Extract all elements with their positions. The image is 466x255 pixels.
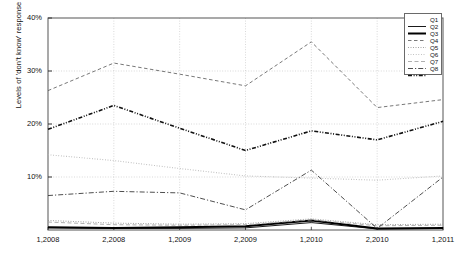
legend-item-q5[interactable]: Q5 bbox=[407, 44, 438, 51]
legend-label: Q2 bbox=[430, 23, 438, 30]
legend-label: Q5 bbox=[430, 44, 438, 51]
legend-label: Q6 bbox=[430, 51, 438, 58]
legend-swatch-icon bbox=[407, 30, 427, 37]
legend-swatch-icon bbox=[407, 16, 427, 23]
legend-label: Q8 bbox=[430, 65, 438, 72]
legend-label: Q7 bbox=[430, 58, 438, 65]
legend-item-q7[interactable]: Q7 bbox=[407, 58, 438, 65]
legend-item-q1[interactable]: Q1 bbox=[407, 16, 438, 23]
legend-swatch-icon bbox=[407, 51, 427, 58]
legend-item-q6[interactable]: Q6 bbox=[407, 51, 438, 58]
series-line-q3 bbox=[48, 42, 443, 108]
legend-label: Q1 bbox=[430, 16, 438, 23]
legend-swatch-icon bbox=[407, 37, 427, 44]
legend: Q1Q2Q3Q4Q5Q6Q7Q8 bbox=[404, 13, 442, 75]
legend-swatch-icon bbox=[407, 44, 427, 51]
legend-item-q2[interactable]: Q2 bbox=[407, 23, 438, 30]
plot-area bbox=[0, 0, 466, 255]
legend-swatch-icon bbox=[407, 58, 427, 65]
legend-item-q8[interactable]: Q8 bbox=[407, 65, 438, 72]
line-chart: Levels of 'don't know' response 40%30%20… bbox=[0, 0, 466, 255]
legend-item-q3[interactable]: Q3 bbox=[407, 30, 438, 37]
legend-label: Q3 bbox=[430, 30, 438, 37]
legend-swatch-icon bbox=[407, 65, 427, 72]
legend-swatch-icon bbox=[407, 23, 427, 30]
legend-item-q4[interactable]: Q4 bbox=[407, 37, 438, 44]
series-line-q7 bbox=[48, 170, 443, 228]
legend-label: Q4 bbox=[430, 37, 438, 44]
